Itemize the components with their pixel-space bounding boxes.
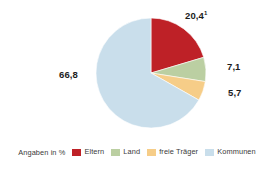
legend-swatch-icon	[205, 149, 214, 156]
slice-value-label-eltern: 20,41	[185, 11, 207, 21]
chart-legend: Angaben in % ElternLandfreie TrägerKommu…	[0, 143, 274, 161]
legend-label: Eltern	[84, 148, 104, 155]
legend-item-freie-trager[interactable]: freie Träger	[147, 148, 198, 155]
legend-label: Land	[123, 148, 140, 155]
legend-items: ElternLandfreie TrägerKommunen	[72, 148, 255, 155]
pie-chart-figure: 20,41 7,1 5,7 66,8 Angaben in % ElternLa…	[0, 0, 274, 170]
slice-value-kommunen: 66,8	[59, 69, 78, 80]
slice-value-eltern: 20,4	[185, 10, 204, 21]
legend-item-land[interactable]: Land	[111, 148, 140, 155]
slice-value-label-freie-traeger: 5,7	[228, 88, 242, 98]
footnote-marker-eltern: 1	[204, 10, 207, 16]
legend-item-kommunen[interactable]: Kommunen	[205, 148, 256, 155]
slice-value-label-kommunen: 66,8	[59, 70, 78, 80]
legend-caption: Angaben in %	[18, 148, 65, 157]
legend-label: Kommunen	[217, 148, 256, 155]
slice-value-freie-traeger: 5,7	[228, 87, 242, 98]
legend-swatch-icon	[111, 149, 120, 156]
slice-value-land: 7,1	[227, 61, 241, 72]
legend-label: freie Träger	[159, 148, 198, 155]
pie-chart-plot-area: 20,41 7,1 5,7 66,8	[0, 0, 274, 140]
legend-swatch-icon	[147, 149, 156, 156]
pie-slice-group	[96, 18, 206, 128]
slice-value-label-land: 7,1	[227, 62, 241, 72]
legend-item-eltern[interactable]: Eltern	[72, 148, 104, 155]
legend-swatch-icon	[72, 149, 81, 156]
